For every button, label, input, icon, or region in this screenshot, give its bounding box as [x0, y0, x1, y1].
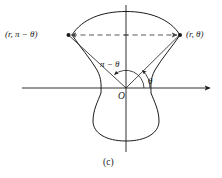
label-right-point: (r, θ): [186, 30, 203, 39]
label-angle-pi-minus-theta: π − θ: [100, 60, 120, 69]
point-marker-right: [178, 33, 182, 37]
angle-arc-pi-minus-theta: [115, 70, 145, 88]
label-origin: O: [118, 92, 125, 102]
point-marker-left: [67, 33, 71, 37]
ray-to-right-point: [126, 36, 179, 89]
label-left-point: (r, π − θ): [5, 30, 38, 39]
figure-caption: (c): [103, 158, 114, 168]
label-angle-theta: θ: [148, 77, 152, 86]
polar-curve-figure: (r, π − θ) (r, θ) π − θ θ O (c): [0, 0, 222, 178]
figure-canvas: [0, 0, 222, 178]
